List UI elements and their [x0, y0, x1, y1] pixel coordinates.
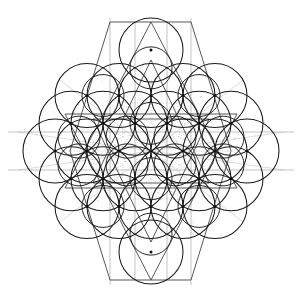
speck-165: [171, 120, 172, 121]
speck-97: [176, 168, 177, 169]
speck-155: [93, 119, 94, 120]
speck-162: [185, 135, 186, 136]
speck-46: [151, 211, 152, 212]
speck-5: [159, 190, 160, 191]
node-dot-14: [102, 177, 105, 180]
speck-2: [175, 145, 176, 146]
speck-123: [181, 70, 182, 71]
speck-27: [71, 190, 72, 191]
speck-135: [129, 185, 130, 186]
speck-14: [127, 219, 128, 220]
speck-143: [185, 117, 186, 118]
speck-102: [154, 64, 155, 65]
speck-163: [107, 163, 108, 164]
node-dot-20: [214, 94, 217, 97]
speck-121: [134, 175, 135, 176]
node-dot-2: [166, 122, 169, 125]
speck-65: [225, 163, 226, 164]
speck-90: [97, 142, 98, 143]
speck-125: [135, 80, 136, 81]
speck-168: [221, 147, 222, 148]
speck-62: [141, 175, 142, 176]
speck-146: [147, 186, 148, 187]
speck-70: [108, 190, 109, 191]
speck-26: [142, 65, 143, 66]
speck-22: [215, 172, 216, 173]
speck-21: [167, 180, 168, 181]
speck-86: [208, 130, 209, 131]
speck-113: [192, 222, 194, 224]
speck-1: [148, 105, 149, 106]
speck-7: [188, 190, 189, 191]
speck-50: [98, 200, 99, 201]
speck-108: [173, 136, 174, 137]
speck-51: [215, 159, 216, 160]
speck-54: [191, 216, 192, 217]
speck-10: [137, 105, 138, 106]
speck-99: [169, 167, 170, 168]
speck-88: [143, 86, 144, 87]
speck-38: [124, 161, 125, 162]
node-dot-3: [134, 122, 137, 125]
speck-6: [73, 113, 74, 114]
mandala-figure: Sacred geometry construction drawing: [0, 0, 302, 302]
speck-107: [84, 204, 85, 205]
node-dot-23: [150, 251, 153, 254]
speck-164: [206, 130, 207, 131]
speck-152: [116, 120, 117, 121]
speck-154: [183, 187, 184, 188]
speck-39: [149, 95, 150, 96]
speck-87: [93, 186, 94, 187]
speck-42: [189, 140, 190, 141]
speck-56: [162, 231, 163, 232]
node-dot-18: [198, 177, 201, 180]
speck-49: [186, 178, 187, 179]
speck-60: [154, 198, 155, 199]
speck-106: [167, 129, 168, 130]
speck-112: [227, 159, 228, 160]
speck-3: [155, 199, 156, 200]
speck-78: [148, 91, 149, 92]
speck-100: [160, 111, 161, 112]
node-dot-25: [54, 150, 57, 153]
speck-69: [140, 68, 141, 69]
speck-85: [166, 93, 167, 94]
speck-92: [115, 217, 116, 218]
speck-129: [177, 126, 178, 127]
speck-131: [198, 137, 199, 138]
node-dot-9: [182, 94, 185, 97]
speck-13: [169, 223, 170, 224]
speck-95: [147, 194, 148, 195]
speck-117: [214, 146, 215, 147]
speck-156: [208, 108, 209, 109]
speck-68: [112, 164, 113, 165]
speck-147: [143, 114, 144, 115]
speck-149: [200, 96, 201, 97]
node-dot-28: [230, 177, 233, 180]
speck-93: [205, 155, 206, 156]
node-dot-6: [166, 177, 169, 180]
speck-55: [189, 127, 190, 128]
speck-40: [97, 171, 98, 172]
speck-101: [190, 95, 191, 96]
speck-23: [91, 174, 92, 175]
node-dot-8: [198, 122, 201, 125]
speck-57: [121, 204, 122, 205]
speck-12: [127, 97, 128, 98]
speck-132: [196, 208, 197, 209]
speck-145: [219, 167, 220, 168]
speck-4: [93, 163, 94, 164]
speck-52: [217, 111, 218, 112]
speck-61: [110, 98, 111, 99]
node-dot-27: [230, 122, 233, 125]
speck-133: [101, 109, 102, 110]
speck-139: [121, 140, 122, 141]
speck-115: [158, 192, 159, 193]
speck-142: [171, 191, 172, 192]
speck-11: [94, 102, 95, 103]
speck-158: [114, 205, 115, 206]
speck-28: [148, 197, 149, 198]
speck-79: [189, 208, 190, 209]
speck-20: [235, 160, 236, 161]
speck-136: [123, 132, 124, 133]
